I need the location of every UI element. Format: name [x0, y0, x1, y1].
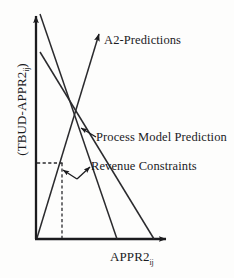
x-axis-label: APPR2ij	[110, 250, 153, 267]
leader-arrow-revenue-lower	[63, 170, 77, 179]
x-axis-label-subscript: ij	[150, 258, 154, 267]
series-line-process-model-prediction	[40, 14, 117, 239]
x-axis-label-main: APPR2	[110, 249, 150, 264]
series-line-revenue-constraints	[40, 52, 154, 239]
y-axis-label-close: )	[14, 63, 29, 67]
leader-arrow-process-model-prediction	[81, 128, 96, 137]
y-axis-label: (TBUD-APPR2ij)	[15, 57, 32, 161]
y-axis-label-subscript: ij	[22, 68, 31, 72]
figure-container: A2-Predictions Process Model Prediction …	[0, 0, 234, 278]
leader-arrow-revenue-upper	[77, 167, 90, 179]
annotation-revenue-constraints: Revenue Constraints	[91, 160, 197, 173]
annotation-a2-predictions: A2-Predictions	[104, 34, 181, 47]
series-line-a2-predictions	[37, 34, 99, 238]
annotation-process-model-prediction: Process Model Prediction	[96, 131, 227, 144]
y-axis-label-main: (TBUD-APPR2	[14, 72, 29, 156]
